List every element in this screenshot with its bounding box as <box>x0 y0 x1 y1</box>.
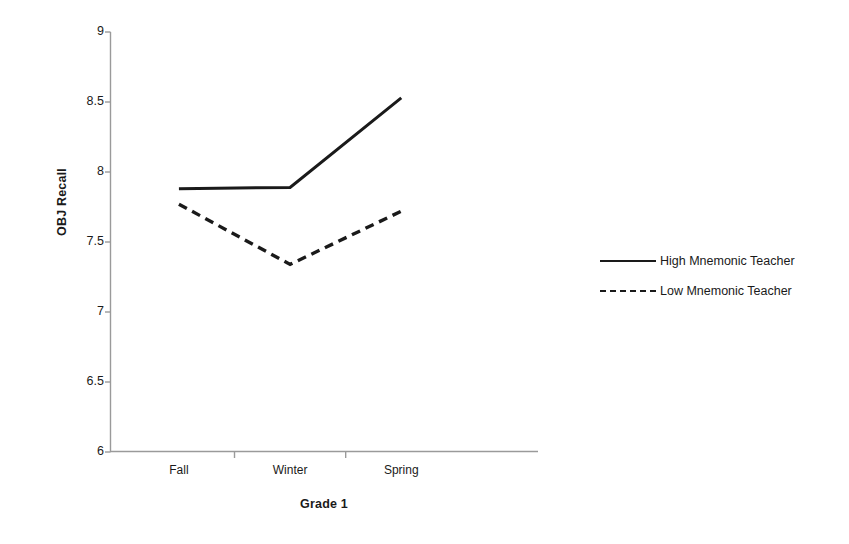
axis-lines <box>110 32 538 452</box>
plot-area <box>110 32 538 452</box>
x-axis-title: Grade 1 <box>110 497 538 511</box>
x-axis-ticks <box>235 452 346 458</box>
x-axis-tick-label: Winter <box>273 463 308 477</box>
y-axis-ticks <box>105 32 111 452</box>
legend-item-label: High Mnemonic Teacher <box>656 254 795 268</box>
legend-item: High Mnemonic Teacher <box>600 246 830 276</box>
y-axis-tick-label: 8 <box>58 165 104 178</box>
y-axis-tick-label: 6.5 <box>58 375 104 388</box>
series-line-dashed <box>179 204 401 264</box>
line-chart-figure: OBJ Recall 66.577.588.59 FallWinterSprin… <box>0 0 849 544</box>
legend-line-sample-solid <box>600 255 656 267</box>
y-axis-tick-labels: 66.577.588.59 <box>48 32 104 452</box>
data-series-group <box>179 98 401 265</box>
y-axis-tick-label: 8.5 <box>58 95 104 108</box>
y-axis-tick-label: 9 <box>58 25 104 38</box>
series-line-solid <box>179 98 401 189</box>
y-axis-tick-label: 7.5 <box>58 235 104 248</box>
legend-item-label: Low Mnemonic Teacher <box>656 284 792 298</box>
legend-item: Low Mnemonic Teacher <box>600 276 830 306</box>
legend-rule <box>600 290 656 292</box>
chart-legend: High Mnemonic TeacherLow Mnemonic Teache… <box>600 246 830 306</box>
plot-svg <box>110 32 538 452</box>
y-axis-tick-label: 7 <box>58 305 104 318</box>
legend-rule <box>600 260 656 262</box>
y-axis-tick-label: 6 <box>58 445 104 458</box>
x-axis-tick-label: Fall <box>169 463 188 477</box>
legend-line-sample-dashed <box>600 285 656 297</box>
x-axis-tick-label: Spring <box>384 463 419 477</box>
